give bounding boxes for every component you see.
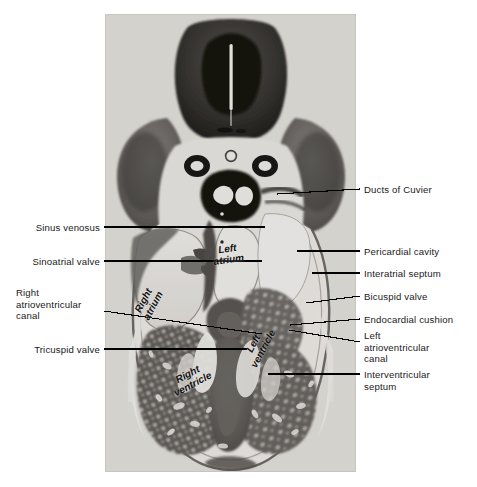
label-sinoatrial-valve: Sinoatrial valve: [14, 256, 100, 268]
label-right-atrioventricular-canal: Right atrioventricular canal: [16, 287, 100, 322]
callout-left-atrium: Left atrium: [211, 241, 244, 267]
label-bicuspid-valve: Bicuspid valve: [364, 291, 427, 303]
figure-embryonic-heart-section: Sinus venosus Sinoatrial valve Right atr…: [0, 0, 477, 487]
label-left-atrioventricular-canal: Left atrioventricular canal: [364, 330, 429, 365]
label-sinus-venosus: Sinus venosus: [28, 222, 100, 234]
label-interventricular-septum: Interventricular septum: [364, 369, 430, 392]
label-pericardial-cavity: Pericardial cavity: [364, 246, 439, 258]
label-ducts-of-cuvier: Ducts of Cuvier: [364, 184, 432, 196]
label-tricuspid-valve: Tricuspid valve: [21, 344, 100, 356]
label-interatrial-septum: Interatrial septum: [364, 268, 441, 280]
label-endocardial-cushion: Endocardial cushion: [364, 314, 453, 326]
